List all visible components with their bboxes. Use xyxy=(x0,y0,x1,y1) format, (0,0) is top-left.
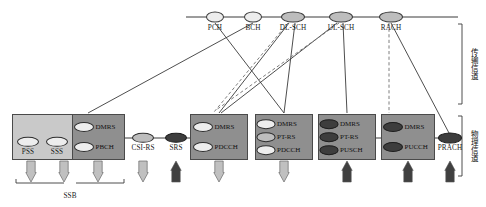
ssb-group-inner-box xyxy=(72,114,125,160)
pucch-group-outer-box xyxy=(381,114,435,160)
transport-side-brace xyxy=(458,24,462,104)
chip-label-prach: PRACH xyxy=(438,145,462,152)
chip-dmrs xyxy=(193,122,213,132)
transport-node-pch xyxy=(206,12,224,23)
chip-label-dmrs: DMRS xyxy=(340,121,360,128)
link-pch-to-pdsch xyxy=(215,23,284,113)
pdcch-group-1-outer-box xyxy=(190,114,248,160)
chip-label-pss: PSS xyxy=(22,149,34,156)
transport-label-pch: PCH xyxy=(208,25,222,32)
chip-dmrs xyxy=(74,122,94,132)
link-ulsch-dash-1 xyxy=(216,23,339,110)
chip-ptrs xyxy=(257,132,276,142)
chip-pucch xyxy=(383,142,403,152)
chip-prach xyxy=(438,133,462,144)
transport-label-ulsch: UL-SCH xyxy=(328,25,355,32)
transport-label-bch: BCH xyxy=(245,25,260,32)
physical-channel-side-label: 物理信道 xyxy=(470,130,478,162)
chip-label-pdcch: PDCCH xyxy=(215,144,238,151)
transport-channel-side-label: 传输信道 xyxy=(470,48,478,80)
arrow-pusch xyxy=(342,161,352,182)
arrow-csirs xyxy=(138,161,148,182)
transport-node-ulsch xyxy=(329,12,353,23)
chip-label-dmrs: DMRS xyxy=(215,124,235,131)
chip-label-srs: SRS xyxy=(169,145,182,152)
chip-label-pbch: PBCH xyxy=(96,144,114,151)
arrow-pdcch xyxy=(214,161,224,182)
direction-arrows xyxy=(26,161,455,182)
transport-node-bch xyxy=(244,12,262,23)
arrow-pdsch xyxy=(279,161,289,182)
chip-label-pusch: PUSCH xyxy=(340,147,363,154)
transport-label-dlsch: DL-SCH xyxy=(280,25,307,32)
transport-node-rach xyxy=(379,12,403,23)
chip-label-sss: SSS xyxy=(51,149,63,156)
chip-label-ptrs: PT-RS xyxy=(277,134,295,141)
arrow-prach xyxy=(445,161,455,182)
chip-ptrs xyxy=(320,132,339,142)
arrow-srs xyxy=(171,161,181,182)
arrow-sss xyxy=(59,161,69,182)
chip-pbch xyxy=(74,142,94,152)
chip-pusch xyxy=(320,145,339,155)
link-dlsch-to-pdsch xyxy=(284,23,295,113)
link-ulsch-to-pusch xyxy=(343,23,347,113)
chip-label-dmrs: DMRS xyxy=(405,124,425,131)
chip-label-dmrs: DMRS xyxy=(277,121,297,128)
chip-dmrs xyxy=(320,119,339,129)
arrow-pbch xyxy=(93,161,103,182)
ssb-brace-label: SSB xyxy=(63,193,76,200)
transport-label-rach: RACH xyxy=(381,25,401,32)
chip-pdcch2 xyxy=(257,145,276,155)
chip-label-pucch: PUCCH xyxy=(405,144,428,151)
connection-lines-layer xyxy=(0,0,486,207)
chip-label-pdcch2: PDCCH xyxy=(277,147,300,154)
chip-dmrs xyxy=(383,122,403,132)
chip-dmrs xyxy=(257,119,276,129)
chip-label-ptrs: PT-RS xyxy=(340,134,358,141)
arrow-pss xyxy=(26,161,36,182)
chip-pdcch xyxy=(193,142,213,152)
link-bch-to-pbch xyxy=(88,23,253,113)
diagram-canvas: PCHBCHDL-SCHUL-SCHRACH PSSSSSDMRSPBCHDMR… xyxy=(0,0,486,207)
chip-label-csirs: CSI-RS xyxy=(132,145,155,152)
arrow-pucch xyxy=(403,161,413,182)
transport-node-dlsch xyxy=(281,12,305,23)
chip-label-dmrs: DMRS xyxy=(96,124,116,131)
